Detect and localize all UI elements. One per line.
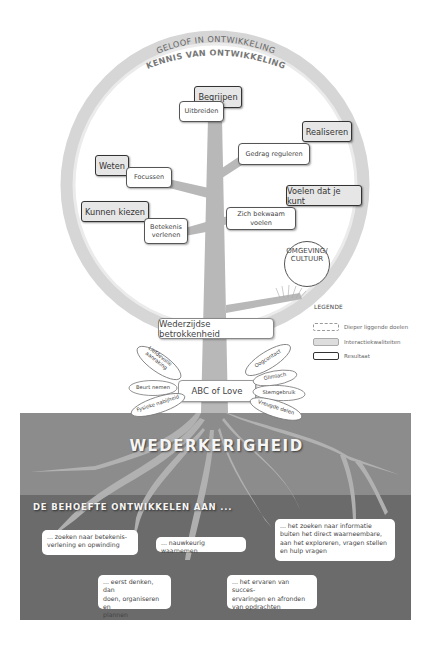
need-denken: ... eerst denken, dan doen, organiseren …: [98, 575, 171, 609]
leaf-label: Beurt nemen: [136, 384, 170, 390]
need-informatie: ... het zoeken naar informatie buiten he…: [275, 519, 395, 561]
need-succes: ... het ervaren van succes- ervaringen e…: [227, 575, 317, 609]
soil-subtitle: DE BEHOEFTE ONTWIKKELEN AAN ...: [33, 502, 232, 512]
leaf-stemgebruik: Stemgebruik: [258, 390, 300, 396]
soil-title: WEDERKERIGHEID: [0, 437, 433, 455]
need-betekenis: ... zoeken naar betekenis- verlening en …: [42, 530, 138, 555]
leaf-beurt-nemen: Beurt nemen: [133, 385, 173, 391]
leaf-label: Stemgebruik: [262, 389, 295, 395]
need-waarnemen: ... nauwkeurig waarnemen: [156, 537, 246, 552]
